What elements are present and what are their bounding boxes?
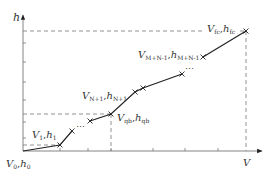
ellipsis-upper: … (185, 61, 194, 71)
y-axis-label: h (13, 11, 20, 24)
label-vmn1-hmn1: VM+N-1,hM+N-1 (138, 49, 199, 61)
label-vfc-hfc: Vfc,hfc (205, 22, 237, 35)
label-v1-h1: V1,h1 (32, 129, 57, 141)
svg-text:V1,h1: V1,h1 (32, 129, 57, 141)
svg-text:VN+1,hN+1: VN+1,hN+1 (82, 90, 127, 102)
svg-text:VM+N-1,hM+N-1: VM+N-1,hM+N-1 (138, 49, 199, 61)
label-v0-h0: V0,h0 (6, 158, 31, 170)
x-axis-label: V (243, 157, 252, 168)
curve-segment-upper (143, 74, 182, 88)
label-vqb-hqb: Vqb,hqb (117, 112, 149, 125)
h-v-diagram: h V … … V0,h0 V1,h1 Vqb,hqb (0, 0, 273, 178)
ellipsis-lower: … (76, 119, 85, 129)
label-vn1-hn1: VN+1,hN+1 (82, 90, 127, 102)
svg-text:V0,h0: V0,h0 (6, 158, 31, 170)
svg-text:Vqb,hqb: Vqb,hqb (117, 112, 149, 125)
